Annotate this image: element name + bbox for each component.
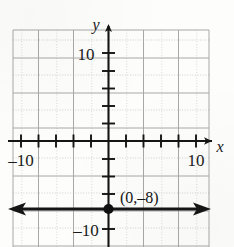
point-coordinate-label: (0,–8) xyxy=(120,189,159,207)
x-axis-label: x xyxy=(215,138,223,155)
label-layer: y x 10 –10 –10 10 (0,–8) xyxy=(0,0,234,247)
x-tick-label-10: 10 xyxy=(188,151,205,170)
graph-figure: y x 10 –10 –10 10 (0,–8) xyxy=(0,0,234,247)
y-axis-label: y xyxy=(90,16,100,34)
y-tick-label-10: 10 xyxy=(78,45,95,64)
y-tick-label-minus-10: –10 xyxy=(72,221,99,240)
x-tick-label-minus-10: –10 xyxy=(7,151,34,170)
